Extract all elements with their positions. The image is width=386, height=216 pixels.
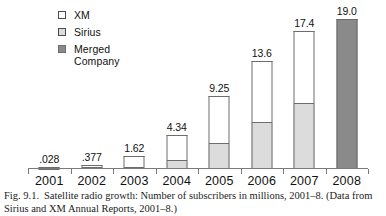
bar-value-label-2008: 19.0 <box>337 5 357 17</box>
bar-value-label-2003: 1.62 <box>124 142 144 154</box>
x-axis-label-2006: 2006 <box>241 174 284 188</box>
bar-value-label-2007: 17.4 <box>294 17 314 29</box>
bar-2004 <box>166 135 187 169</box>
bar-value-label-2001: .028 <box>39 153 59 165</box>
bar-group-2007: 17.4 <box>283 14 326 169</box>
x-axis-label-2004: 2004 <box>156 174 199 188</box>
bar-value-label-2002: .377 <box>82 151 102 163</box>
bar-group-2003: 1.62 <box>113 14 156 169</box>
bar-group-2005: 9.25 <box>198 14 241 169</box>
bar-group-2006: 13.6 <box>241 14 284 169</box>
bar-segment-2006-sirius <box>251 122 272 169</box>
bar-segment-2008-merged-company <box>336 19 357 169</box>
bar-segment-2006-xm <box>251 61 272 121</box>
x-axis-label-2002: 2002 <box>71 174 114 188</box>
bar-2008 <box>336 19 357 169</box>
x-axis-label-2005: 2005 <box>198 174 241 188</box>
bar-value-label-2004: 4.34 <box>167 121 187 133</box>
chart-plot-area: .028.3771.624.349.2513.617.419.0 <box>28 14 368 169</box>
x-axis-label-2008: 2008 <box>326 174 369 188</box>
bar-segment-2005-sirius <box>209 143 230 169</box>
figure-number: Fig. 9.1. <box>4 190 39 201</box>
x-axis-label-2003: 2003 <box>113 174 156 188</box>
bar-value-label-2006: 13.6 <box>252 47 272 59</box>
x-axis-label-2007: 2007 <box>283 174 326 188</box>
bar-2005 <box>209 96 230 169</box>
x-axis-label-2001: 2001 <box>28 174 71 188</box>
figure-caption-text: Satellite radio growth: Number of subscr… <box>4 190 372 214</box>
bar-group-2002: .377 <box>71 14 114 169</box>
bar-2006 <box>251 61 272 169</box>
figure-satellite-radio-growth: XM Sirius Merged Company .028.3771.624.3… <box>0 0 386 216</box>
bar-segment-2007-sirius <box>294 103 315 169</box>
bar-group-2001: .028 <box>28 14 71 169</box>
bar-segment-2003-xm <box>124 156 145 167</box>
bar-segment-2004-xm <box>166 135 187 160</box>
bar-segment-2005-xm <box>209 96 230 143</box>
figure-caption: Fig. 9.1.Satellite radio growth: Number … <box>4 190 382 215</box>
bar-group-2008: 19.0 <box>326 14 369 169</box>
bar-segment-2007-xm <box>294 31 315 103</box>
bar-group-2004: 4.34 <box>156 14 199 169</box>
bar-value-label-2005: 9.25 <box>209 82 229 94</box>
x-axis-tick-8 <box>368 169 369 174</box>
bar-2007 <box>294 31 315 169</box>
